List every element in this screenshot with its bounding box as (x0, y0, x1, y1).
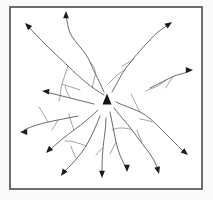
figure-root (0, 0, 213, 200)
radial-dispersal-figure (0, 0, 213, 200)
